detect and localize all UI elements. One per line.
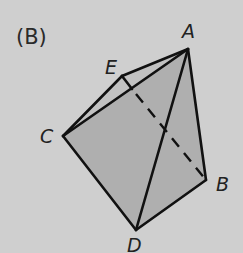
panel-label: (B) xyxy=(16,25,47,49)
vertex-label-b: B xyxy=(216,175,229,194)
vertex-label-d: D xyxy=(127,236,142,253)
tetrahedron-figure: (B) A E C B D xyxy=(0,0,243,253)
vertex-label-c: C xyxy=(40,127,53,146)
vertex-label-e: E xyxy=(105,58,117,77)
vertex-label-a: A xyxy=(182,22,195,41)
